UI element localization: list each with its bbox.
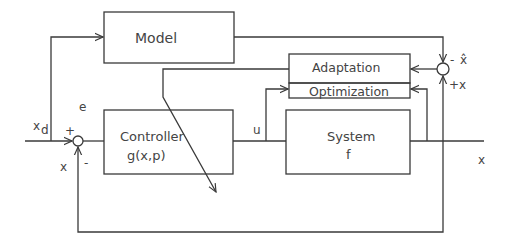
model-output-label: x̂ [460,53,467,67]
reference-subscript: d [41,123,49,137]
model-label: Model [135,30,177,46]
adaptation-label: Adaptation [312,60,380,75]
system-function-label: f [346,147,351,162]
control-signal-label: u [253,123,261,137]
system-label: System [327,129,375,144]
control-to-optimization-line [266,89,288,141]
feedback-label: x [60,160,67,174]
output-to-optimization-line [411,89,427,141]
output-label: x [478,153,485,167]
controller-function-label: g(x,p) [127,148,165,163]
optimization-label: Optimization [309,84,389,99]
error-label: e [79,100,86,114]
compare-output-label: x [459,78,466,92]
right-plus-sign: + [449,78,459,92]
right-summing-junction [437,63,449,75]
left-plus-sign: + [65,124,75,138]
controller-label: Controller [120,129,185,144]
reference-signal-label: x [33,119,40,133]
left-minus-sign: - [84,156,88,170]
model-output-line [234,37,443,62]
right-minus-sign: - [450,53,454,67]
adaptive-control-diagram: Model Adaptation Optimization Controller… [0,0,509,248]
reference-to-model-line [51,37,103,141]
